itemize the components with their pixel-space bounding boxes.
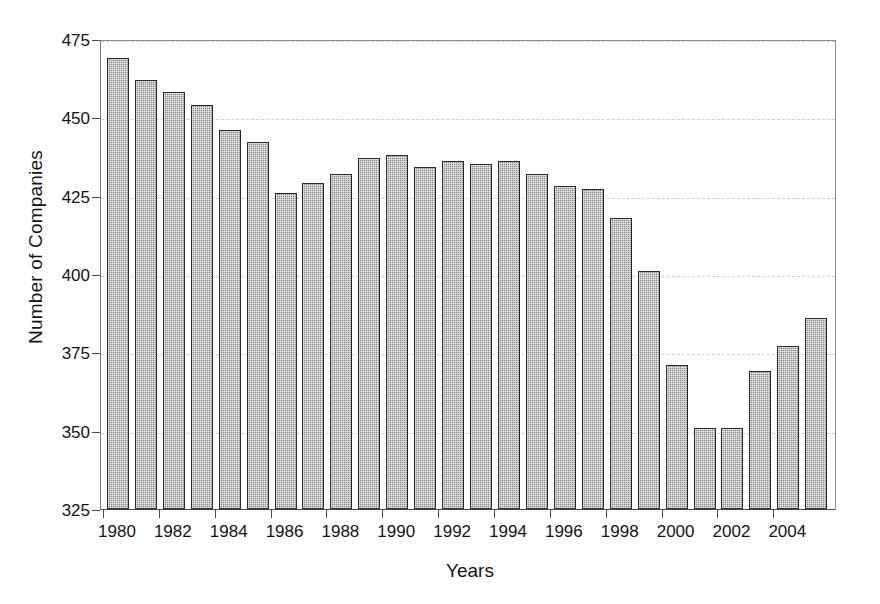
x-tick-mark [662,510,663,518]
x-tick-mark [773,510,774,518]
bar [582,189,604,509]
bar [694,428,716,509]
bar-series [101,41,835,509]
x-tick-mark [550,510,551,518]
y-tick-mark [92,432,100,433]
bar [275,193,297,509]
x-tick-mark [382,510,383,518]
bar [219,130,241,509]
bar [721,428,743,509]
bar [498,161,520,509]
x-axis-title: Years [100,560,840,582]
x-tick-mark [326,510,327,518]
y-tick-label: 400 [30,266,90,286]
y-tick-mark [92,118,100,119]
bar [554,186,576,509]
x-tick-mark [215,510,216,518]
y-tick-mark [92,40,100,41]
bar [749,371,771,509]
y-tick-label: 325 [30,501,90,521]
bar [666,365,688,509]
bar [107,58,129,509]
bar [386,155,408,509]
bar [414,167,436,509]
bar [777,346,799,509]
y-tick-label: 425 [30,188,90,208]
bar [163,92,185,509]
x-tick-mark [438,510,439,518]
bar [638,271,660,509]
bar [358,158,380,509]
x-tick-label: 2004 [752,522,822,542]
bar [610,218,632,509]
y-tick-mark [92,275,100,276]
y-tick-mark [92,197,100,198]
bar [470,164,492,509]
x-tick-mark [494,510,495,518]
y-tick-label: 475 [30,31,90,51]
bar [330,174,352,509]
y-tick-label: 450 [30,109,90,129]
bar [135,80,157,509]
y-tick-label: 350 [30,423,90,443]
x-tick-mark [717,510,718,518]
bar-chart: Number of Companies 32535037540042545047… [0,0,880,604]
y-tick-mark [92,353,100,354]
x-tick-mark [271,510,272,518]
x-tick-mark [103,510,104,518]
bar [805,318,827,509]
plot-area [100,40,836,510]
x-tick-mark [159,510,160,518]
bar [302,183,324,509]
bar [247,142,269,509]
bar [191,105,213,509]
bar [442,161,464,509]
bar [526,174,548,509]
y-tick-label: 375 [30,344,90,364]
x-tick-mark [606,510,607,518]
y-tick-mark [92,510,100,511]
